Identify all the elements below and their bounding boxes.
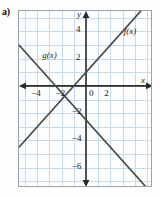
series-label-g: g(x) (42, 50, 57, 60)
coordinate-plane: −4−20242−2−4−6 x y f(x) g(x) (18, 10, 152, 187)
y-tick-label: 4 (76, 24, 81, 34)
x-tick-label: 2 (104, 88, 109, 98)
y-axis-arrow-down (83, 180, 90, 187)
y-axis-arrow-up (83, 11, 90, 18)
x-axis-arrow-right (146, 82, 152, 89)
y-tick-label: −4 (72, 133, 82, 143)
axes-group (19, 11, 152, 187)
part-label: a) (2, 6, 10, 17)
axes-and-curves (19, 11, 152, 187)
y-tick-label: −2 (72, 106, 82, 116)
x-axis-label: x (141, 75, 145, 85)
x-tick-label: −4 (31, 88, 41, 98)
x-tick-label: −2 (56, 88, 66, 98)
figure-container: a) −4−20242−2−4−6 x y f(x) g(x) (0, 0, 161, 197)
y-tick-label: 2 (76, 52, 81, 62)
x-tick-label: 0 (89, 88, 94, 98)
y-axis-label: y (77, 10, 81, 19)
x-axis-arrow-left (19, 82, 26, 89)
series-label-f: f(x) (124, 26, 137, 36)
y-tick-label: −6 (72, 161, 82, 171)
